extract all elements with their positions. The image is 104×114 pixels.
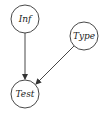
node-inf-label: Inf xyxy=(18,14,33,24)
edge-type-to-test xyxy=(36,46,74,84)
bayes-network-diagram: Inf Type Test xyxy=(0,0,104,114)
node-inf: Inf xyxy=(11,5,39,33)
node-type-label: Type xyxy=(73,31,95,41)
node-type: Type xyxy=(70,22,98,50)
node-test-label: Test xyxy=(16,89,35,99)
node-test: Test xyxy=(11,80,39,108)
